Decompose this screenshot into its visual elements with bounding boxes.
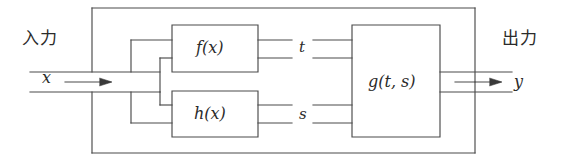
output-label-jp: 出力 (502, 30, 538, 47)
intermediate-signal-label-t: t (299, 40, 305, 55)
diagram-wires (0, 0, 566, 159)
output-signal-label-y: y (514, 74, 523, 90)
block-label-h: h(x) (194, 106, 226, 122)
output-arrow (455, 78, 502, 86)
intermediate-signal-label-s: s (299, 107, 307, 122)
input-signal-label-x: x (42, 70, 51, 86)
input-label-jp: 入力 (22, 30, 58, 47)
block-label-g: g(t, s) (368, 74, 416, 90)
block-diagram-figure: 入力 出力 x y t s f(x) h(x) g(t, s) (0, 0, 566, 159)
input-arrow (65, 78, 112, 86)
block-label-f: f(x) (196, 40, 223, 56)
